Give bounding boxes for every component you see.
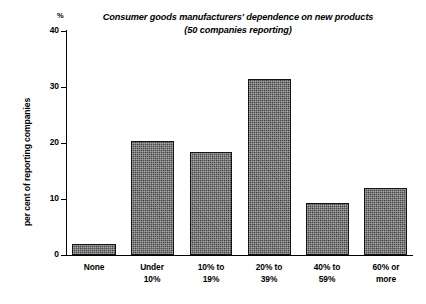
x-label-40-to-59-line-1: 40% to (297, 262, 357, 274)
y-tick-label-0: 0 (33, 250, 59, 259)
bar-under-10[interactable] (131, 141, 174, 256)
y-tick-40 (61, 31, 66, 32)
bar-10-to-19[interactable] (190, 152, 232, 256)
x-label-40-to-59: 40% to 59% (297, 262, 357, 285)
x-label-under-10-line-1: Under (122, 262, 182, 274)
x-label-10-to-19-line-2: 19% (181, 274, 241, 286)
y-axis-line (66, 30, 67, 256)
x-label-under-10-line-2: 10% (122, 274, 182, 286)
y-tick-0 (61, 255, 66, 256)
x-label-10-to-19-line-1: 10% to (181, 262, 241, 274)
y-tick-label-20: 20 (33, 138, 59, 147)
x-label-20-to-39-line-1: 20% to (239, 262, 299, 274)
y-tick-10 (61, 199, 66, 200)
y-tick-30 (61, 87, 66, 88)
x-label-20-to-39: 20% to 39% (239, 262, 299, 285)
y-tick-label-40: 40 (33, 26, 59, 35)
x-label-20-to-39-line-2: 39% (239, 274, 299, 286)
x-label-none-line-1: None (64, 262, 124, 274)
x-label-10-to-19: 10% to 19% (181, 262, 241, 285)
x-axis-line (66, 255, 413, 256)
y-tick-label-10: 10 (33, 194, 59, 203)
chart-title-block: Consumer goods manufacturers' dependence… (88, 11, 388, 36)
bar-chart: Consumer goods manufacturers' dependence… (0, 0, 426, 304)
x-label-under-10: Under 10% (122, 262, 182, 285)
bar-60-or-more[interactable] (364, 188, 407, 255)
page-title: Consumer goods manufacturers' dependence… (88, 11, 388, 24)
bar-40-to-59[interactable] (306, 203, 349, 255)
bar-none[interactable] (72, 244, 116, 255)
x-label-60-or-more-line-2: more (356, 274, 416, 286)
x-label-60-or-more: 60% or more (356, 262, 416, 285)
y-tick-label-30: 30 (33, 82, 59, 91)
x-label-60-or-more-line-1: 60% or (356, 262, 416, 274)
y-axis-unit-label: % (57, 12, 64, 20)
y-axis-title: per cent of reporting companies (22, 72, 32, 252)
x-label-40-to-59-line-2: 59% (297, 274, 357, 286)
chart-subtitle: (50 companies reporting) (88, 24, 388, 37)
y-tick-20 (61, 143, 66, 144)
bar-20-to-39[interactable] (248, 79, 291, 255)
x-label-none: None (64, 262, 124, 274)
